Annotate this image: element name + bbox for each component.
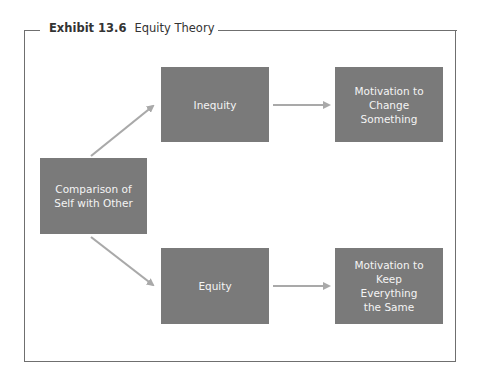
arrow-comparison-to-equity bbox=[91, 237, 153, 285]
node-inequity: Inequity bbox=[161, 67, 269, 142]
node-comparison: Comparison of Self with Other bbox=[40, 158, 147, 234]
node-comparison-label: Comparison of Self with Other bbox=[54, 182, 134, 210]
node-motivation-keep-label: Motivation to Keep Everything the Same bbox=[351, 258, 427, 314]
arrow-comparison-to-inequity bbox=[91, 106, 153, 156]
node-motivation-change: Motivation to Change Something bbox=[335, 67, 443, 142]
node-equity-label: Equity bbox=[198, 279, 231, 293]
node-motivation-keep: Motivation to Keep Everything the Same bbox=[335, 248, 443, 324]
node-equity: Equity bbox=[161, 248, 269, 324]
node-motivation-change-label: Motivation to Change Something bbox=[349, 84, 429, 126]
node-inequity-label: Inequity bbox=[194, 98, 237, 112]
